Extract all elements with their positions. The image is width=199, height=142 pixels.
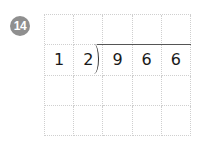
dividend-digit: 9 bbox=[103, 45, 132, 75]
grid-cell[interactable] bbox=[162, 15, 191, 45]
dividend-digit: 6 bbox=[133, 45, 162, 75]
grid-cell[interactable] bbox=[162, 106, 191, 136]
grid-cell[interactable] bbox=[74, 106, 103, 136]
grid-cell[interactable] bbox=[133, 76, 162, 106]
grid-cell[interactable] bbox=[45, 15, 74, 45]
division-bar bbox=[97, 44, 191, 45]
grid-cell[interactable] bbox=[45, 106, 74, 136]
grid-cell[interactable] bbox=[45, 76, 74, 106]
long-division-grid: 1 2 9 6 6 bbox=[44, 14, 191, 136]
division-bracket-icon bbox=[89, 44, 99, 74]
grid-cell[interactable] bbox=[162, 76, 191, 106]
grid-cell[interactable] bbox=[103, 15, 132, 45]
problem-number-badge: 14 bbox=[10, 16, 30, 36]
grid-cell[interactable] bbox=[133, 15, 162, 45]
divisor-digit: 1 bbox=[45, 45, 74, 75]
grid-cell[interactable] bbox=[74, 15, 103, 45]
grid-cell[interactable] bbox=[74, 76, 103, 106]
grid-cell[interactable] bbox=[103, 76, 132, 106]
grid-cell[interactable] bbox=[103, 106, 132, 136]
dividend-digit: 6 bbox=[162, 45, 191, 75]
grid-cell[interactable] bbox=[133, 106, 162, 136]
